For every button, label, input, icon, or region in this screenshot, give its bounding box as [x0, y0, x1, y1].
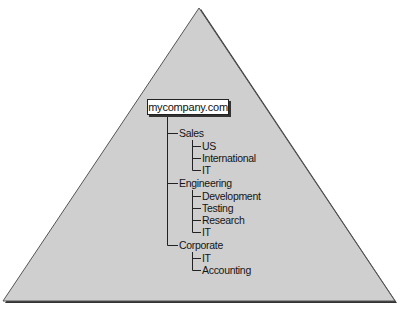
branch-corporate: Corporate	[179, 239, 223, 251]
branch-sales: Sales	[179, 127, 204, 139]
node-corporate-accounting: Accounting	[202, 264, 251, 276]
node-engineering-development: Development	[202, 190, 261, 202]
pyramid-background	[0, 0, 400, 312]
root-node: mycompany.com	[147, 99, 229, 115]
node-engineering-testing: Testing	[202, 202, 233, 214]
node-sales-international: International	[202, 152, 256, 164]
node-engineering-research: Research	[202, 214, 245, 226]
branch-engineering: Engineering	[179, 177, 232, 189]
node-sales-us: US	[202, 140, 216, 152]
node-corporate-it: IT	[202, 252, 211, 264]
node-sales-it: IT	[202, 164, 211, 176]
node-engineering-it: IT	[202, 226, 211, 238]
